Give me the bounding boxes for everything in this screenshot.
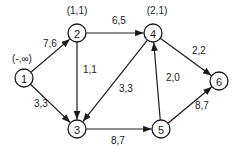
node-4-tag: (2,1) <box>147 5 168 16</box>
node-1: 1 <box>15 69 33 87</box>
edge-label: 8,7 <box>195 100 209 111</box>
arrow-icon <box>83 40 148 121</box>
node-4: 4 <box>144 24 162 42</box>
node-label: 4 <box>150 28 156 40</box>
edge-4-to-3 <box>83 40 148 121</box>
node-label: 5 <box>158 124 164 136</box>
edge-5-to-4 <box>154 42 160 120</box>
arrow-icon <box>154 42 160 120</box>
node-label: 3 <box>74 124 80 136</box>
edge-label: 1,1 <box>83 64 97 75</box>
edge-label: 2,2 <box>192 45 206 56</box>
node-label: 1 <box>21 73 27 85</box>
node-2-tag: (1,1) <box>67 5 88 16</box>
node-3: 3 <box>68 120 86 138</box>
edge-label: 3,3 <box>34 98 48 109</box>
node-6: 6 <box>210 72 228 90</box>
node-1-tag: (-,∞) <box>12 53 32 64</box>
arrow-icon <box>160 38 211 75</box>
edge-label: 3,3 <box>119 83 133 94</box>
edge-labels: 7,63,36,51,13,32,22,08,78,7 <box>34 15 209 146</box>
node-label: 6 <box>216 76 222 88</box>
flow-network-diagram: 7,63,36,51,13,32,22,08,78,7 123456 (-,∞)… <box>0 0 238 152</box>
node-5: 5 <box>152 120 170 138</box>
node-label: 2 <box>74 28 80 40</box>
edges <box>30 33 211 129</box>
edge-label: 7,6 <box>43 38 57 49</box>
node-2: 2 <box>68 24 86 42</box>
edge-label: 8,7 <box>111 135 125 146</box>
edge-label: 2,0 <box>166 72 180 83</box>
edge-label: 6,5 <box>112 15 126 26</box>
edge-4-to-6 <box>160 38 211 75</box>
